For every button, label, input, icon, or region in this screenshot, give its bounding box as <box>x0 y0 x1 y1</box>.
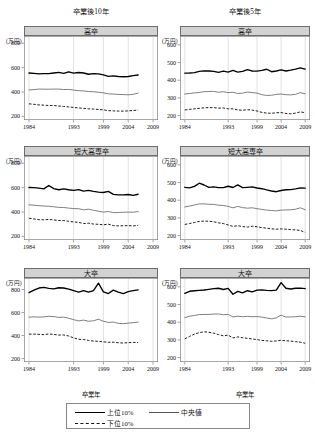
plot-jc-10y: 19841993199920042009200400600800 <box>24 156 158 252</box>
ytick-label: 500 <box>167 60 176 66</box>
panel-hs-10y: 高卒(万円)19841993199920042009200400600800 <box>24 26 158 132</box>
ytick-label: 800 <box>11 287 20 293</box>
panel-hs-5y: 高卒(万円)1984199319992004200920030040050060… <box>180 26 310 132</box>
xtick-label: 1984 <box>23 366 35 372</box>
legend-label-median: 中央値 <box>181 407 202 417</box>
panel-univ-5y: 大卒(万円)1984199319992004200920030040050060… <box>180 268 310 374</box>
xtick-label: 1984 <box>179 366 191 372</box>
legend-swatch-median <box>147 407 181 417</box>
ytick-label: 200 <box>167 113 176 119</box>
xtick-label: 1999 <box>251 244 263 250</box>
ytick-label: 600 <box>167 42 176 48</box>
plot-hs-10y: 19841993199920042009200400600800 <box>24 36 158 132</box>
plot-frame <box>180 36 309 119</box>
ytick-label: 800 <box>11 160 20 166</box>
panel-strip-hs-10y: 高卒 <box>24 26 158 36</box>
ytick-label: 400 <box>167 319 176 325</box>
column-title-right: 卒業後5年 <box>180 6 310 16</box>
xtick-label: 2009 <box>147 366 159 372</box>
ytick-label: 400 <box>11 333 20 339</box>
panel-jc-10y: 短大高専卒(万円)1984199319992004200920040060080… <box>24 146 158 252</box>
xtick-label: 2004 <box>122 124 134 130</box>
ytick-label: 600 <box>11 65 20 71</box>
ytick-label: 200 <box>11 233 20 239</box>
panel-strip-univ-10y: 大卒 <box>24 268 158 278</box>
panel-strip-jc-5y: 短大高専卒 <box>180 146 310 156</box>
xtick-label: 2004 <box>122 244 134 250</box>
panel-strip-jc-10y: 短大高専卒 <box>24 146 158 156</box>
panel-strip-hs-5y: 高卒 <box>180 26 310 36</box>
xtick-label: 1993 <box>222 244 234 250</box>
xtick-label: 1993 <box>222 366 234 372</box>
legend-item-top10: 上位10% <box>73 407 133 417</box>
ytick-label: 300 <box>167 337 176 343</box>
xtick-label: 1999 <box>251 124 263 130</box>
legend-swatch-bottom10 <box>73 418 107 428</box>
xtick-label: 1993 <box>68 124 80 130</box>
xtick-label: 2004 <box>122 366 134 372</box>
ytick-label: 200 <box>167 355 176 361</box>
plot-univ-5y: 19841993199920042009200300400500600 <box>180 278 310 374</box>
ytick-label: 600 <box>11 310 20 316</box>
column-title-left: 卒業後10年 <box>24 6 158 16</box>
legend-item-median: 中央値 <box>147 407 202 417</box>
legend-item-bottom10: 下位10% <box>73 418 133 428</box>
ytick-label: 400 <box>167 197 176 203</box>
xtick-label: 1984 <box>179 244 191 250</box>
panel-univ-10y: 大卒(万円)19841993199920042009200400600800 <box>24 268 158 374</box>
legend-row-1: 上位10% 中央値 <box>73 406 243 417</box>
xtick-label: 1984 <box>23 244 35 250</box>
legend-label-bottom10: 下位10% <box>107 418 133 428</box>
xtick-label: 2004 <box>275 244 287 250</box>
xaxis-label-right: 卒業年 <box>180 390 310 399</box>
xtick-label: 1999 <box>97 124 109 130</box>
ytick-label: 200 <box>11 356 20 362</box>
panel-jc-5y: 短大高専卒(万円)1984199319992004200920030040050… <box>180 146 310 252</box>
ytick-label: 400 <box>11 89 20 95</box>
legend-label-top10: 上位10% <box>107 407 133 417</box>
ytick-label: 600 <box>167 162 176 168</box>
xtick-label: 2004 <box>275 366 287 372</box>
ytick-label: 600 <box>11 185 20 191</box>
legend: 上位10% 中央値 下位10% <box>66 403 250 429</box>
plot-univ-10y: 19841993199920042009200400600800 <box>24 278 158 374</box>
plot-hs-5y: 19841993199920042009200300400500600 <box>180 36 310 132</box>
xtick-label: 2009 <box>147 124 159 130</box>
xtick-label: 2009 <box>299 244 311 250</box>
xtick-label: 1993 <box>68 244 80 250</box>
xtick-label: 2009 <box>147 244 159 250</box>
xtick-label: 2009 <box>299 124 311 130</box>
ytick-label: 200 <box>167 233 176 239</box>
ytick-label: 400 <box>11 209 20 215</box>
figure-root: 卒業後10年 卒業後5年 高卒(万円)198419931999200420092… <box>0 0 315 433</box>
ytick-label: 500 <box>167 180 176 186</box>
xtick-label: 2004 <box>275 124 287 130</box>
xaxis-label-left: 卒業年 <box>24 390 158 399</box>
plot-frame <box>24 36 157 119</box>
xtick-label: 1999 <box>97 244 109 250</box>
plot-jc-5y: 19841993199920042009200300400500600 <box>180 156 310 252</box>
ytick-label: 600 <box>167 284 176 290</box>
xtick-label: 1999 <box>97 366 109 372</box>
ytick-label: 400 <box>167 77 176 83</box>
xtick-label: 1993 <box>68 366 80 372</box>
xtick-label: 1993 <box>222 124 234 130</box>
ytick-label: 300 <box>167 95 176 101</box>
ytick-label: 300 <box>167 215 176 221</box>
panel-strip-univ-5y: 大卒 <box>180 268 310 278</box>
ytick-label: 200 <box>11 113 20 119</box>
ytick-label: 500 <box>167 302 176 308</box>
ytick-label: 800 <box>11 40 20 46</box>
xtick-label: 1984 <box>179 124 191 130</box>
xtick-label: 2009 <box>299 366 311 372</box>
xtick-label: 1984 <box>23 124 35 130</box>
legend-swatch-top10 <box>73 407 107 417</box>
plot-frame <box>24 156 157 239</box>
legend-row-2: 下位10% <box>73 417 243 428</box>
xtick-label: 1999 <box>251 366 263 372</box>
